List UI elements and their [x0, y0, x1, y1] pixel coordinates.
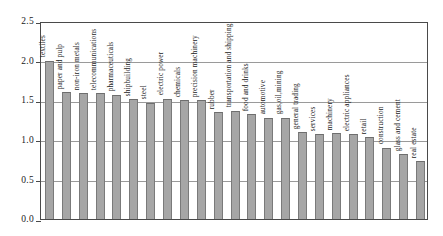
bar-category-label: general trading [292, 83, 299, 129]
bar-group: steel [146, 103, 155, 219]
bar [416, 161, 425, 219]
bar-group: electric power [163, 99, 172, 219]
bar-category-label: telecommunications [90, 29, 97, 90]
bar-group: machinery [332, 133, 341, 219]
plot-area: textilespaper and pulpnon-iron metalstel… [40, 22, 428, 220]
bar-category-label: precision machinery [191, 35, 198, 97]
bar [129, 99, 138, 219]
bar-group: telecommunications [96, 93, 105, 219]
bar [332, 133, 341, 219]
bar [349, 134, 358, 219]
bar-category-label: food and drinks [241, 63, 248, 111]
bar-group: textiles [45, 61, 54, 219]
bar-group: real estate [416, 161, 425, 219]
y-axis-tick-label: 2.0 [21, 57, 34, 67]
y-axis-tick-labels: 0.00.51.01.52.02.5 [0, 0, 34, 236]
bar [399, 154, 408, 219]
bar [180, 100, 189, 219]
bar-category-label: paper and pulp [56, 44, 63, 89]
y-axis-tick-label: 0.0 [21, 215, 34, 225]
bar-category-label: chemicals [174, 67, 181, 98]
bar [298, 132, 307, 219]
bar [96, 93, 105, 219]
bar-category-label: retail [359, 119, 366, 135]
y-axis-tick [36, 221, 41, 222]
bar [231, 111, 240, 220]
bar-group: rubber [214, 112, 223, 219]
bar-group: pharmaceuticals [112, 95, 121, 219]
bar-group: glass and cement [399, 154, 408, 219]
bar [281, 118, 290, 219]
y-axis-tick-label: 1.5 [21, 96, 34, 106]
bar-group: automotive [264, 118, 273, 219]
bar [214, 112, 223, 219]
bar-group: construction [382, 148, 391, 219]
bar-category-label: automotive [258, 80, 265, 114]
bar [382, 148, 391, 219]
bar-category-label: textiles [39, 35, 46, 57]
bar-group: retail [365, 137, 374, 219]
bar-group: gas,oil,mining [281, 118, 290, 219]
bar-category-label: glass and cement [393, 99, 400, 151]
bar [197, 100, 206, 219]
bar [264, 118, 273, 219]
bar-category-label: shipbuilding [123, 58, 130, 96]
bar-group: paper and pulp [62, 92, 71, 219]
bar [365, 137, 374, 219]
bar [79, 93, 88, 219]
bar [315, 134, 324, 219]
bar-category-label: gas,oil,mining [275, 71, 282, 115]
bar [112, 95, 121, 219]
bar-category-label: electric appliances [343, 74, 350, 131]
bar-category-label: machinery [326, 98, 333, 130]
bar-group: services [315, 134, 324, 219]
bar-group: chemicals [180, 100, 189, 219]
bar-group: food and drinks [247, 114, 256, 219]
bar-category-label: non-iron metals [73, 42, 80, 90]
bar [146, 103, 155, 219]
bar-category-label: steel [140, 85, 147, 99]
bar [247, 114, 256, 219]
bar-category-label: transportation and shipping [225, 24, 232, 108]
bar-group: transportation and shipping [231, 111, 240, 220]
bar-group: non-iron metals [79, 93, 88, 219]
bar-category-label: real estate [410, 127, 417, 158]
bar [45, 61, 54, 219]
bar-category-label: pharmaceuticals [106, 42, 113, 92]
y-axis-tick-label: 1.0 [21, 136, 34, 146]
y-axis-tick-label: 0.5 [21, 176, 34, 186]
bar [62, 92, 71, 219]
bar-group: electric appliances [349, 134, 358, 219]
bar-category-label: electric power [157, 52, 164, 96]
bar-category-label: services [309, 107, 316, 132]
bar [163, 99, 172, 219]
y-axis-tick-label: 2.5 [21, 17, 34, 27]
bar-group: precision machinery [197, 100, 206, 219]
bar-category-label: construction [376, 107, 383, 145]
bar-series: textilespaper and pulpnon-iron metalstel… [41, 23, 427, 219]
bar-category-label: rubber [208, 89, 215, 109]
bar-group: general trading [298, 132, 307, 219]
bar-chart: 0.00.51.01.52.02.5 textilespaper and pul… [0, 0, 443, 236]
bar-group: shipbuilding [129, 99, 138, 219]
